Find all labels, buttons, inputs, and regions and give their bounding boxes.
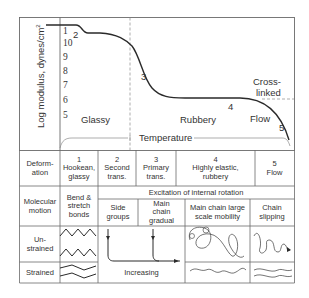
molecular-main-chain-large: Main chain largescale mobility xyxy=(185,199,250,226)
y-axis-label: Log modulus, dynes/cm2 xyxy=(35,24,46,128)
tick-6: 6 xyxy=(63,95,68,105)
zigzag-unstrained-bottom xyxy=(60,249,96,256)
molecular-excitation-header: Excitation of internal rotation xyxy=(98,187,294,199)
row-label-unstrained: Un-strained xyxy=(20,227,60,262)
x-axis-label: Temperature xyxy=(137,132,194,143)
zigzag-unstrained-top xyxy=(60,229,96,236)
increasing-label: Increasing xyxy=(98,264,185,282)
arrow-right xyxy=(174,259,179,263)
region-cross-linked-1: Cross- xyxy=(253,76,281,87)
arrow-down-2 xyxy=(151,236,155,240)
slipping-strained-2 xyxy=(254,275,292,277)
row-label-strained: Strained xyxy=(20,263,60,283)
chain-slipping-tangle xyxy=(254,233,290,253)
tick-5: 5 xyxy=(63,110,68,120)
coil-chain-unstrained xyxy=(189,227,244,257)
deformation-cell-4: 4Highly elastic,rubbery xyxy=(176,151,255,186)
molecular-bend-stretch: Bend &stretchbonds xyxy=(60,187,98,226)
temperature-bracket-left xyxy=(60,138,128,148)
region-flow: Flow xyxy=(250,113,270,124)
molecular-chain-slipping: Chainslipping xyxy=(250,199,294,226)
zigzag-strained-top xyxy=(60,265,96,270)
tick-9: 9 xyxy=(63,52,68,62)
molecular-main-chain-gradual: Mainchaingradual xyxy=(138,199,185,226)
coil-chain-strained xyxy=(190,268,246,273)
curve-label-2: 2 xyxy=(73,29,78,40)
region-cross-linked-2: linked xyxy=(256,87,281,98)
tick-8: 8 xyxy=(63,66,68,76)
tick-1: 1 xyxy=(63,26,68,36)
row-label-deformation: Deform-ation xyxy=(20,151,60,186)
increasing-arrow-path-2 xyxy=(153,229,159,261)
slipping-strained-1 xyxy=(254,269,292,271)
modulus-temperature-diagram: Log modulus, dynes/cm2 1 10 9 8 7 6 5 2 … xyxy=(0,0,309,298)
arrow-down-1 xyxy=(106,236,110,240)
tick-10: 10 xyxy=(63,38,73,48)
row-label-molecular-motion: Molecularmotion xyxy=(20,187,60,226)
curve-label-3: 3 xyxy=(141,71,146,82)
deformation-cell-5: 5Flow xyxy=(255,151,294,186)
deformation-cell-3: 3Primarytrans. xyxy=(136,151,176,186)
curve-label-4: 4 xyxy=(228,101,233,112)
increasing-arrow-path-1 xyxy=(108,229,180,261)
region-rubbery: Rubbery xyxy=(180,114,216,125)
zigzag-strained-bottom xyxy=(60,273,96,278)
region-glassy: Glassy xyxy=(81,114,110,125)
curve-label-5: 5 xyxy=(279,122,284,133)
molecular-side-groups: Sidegroups xyxy=(98,199,138,226)
deformation-cell-1: 1Hookean,glassy xyxy=(60,151,98,186)
deformation-cell-2: 2Secondtrans. xyxy=(98,151,136,186)
tick-7: 7 xyxy=(63,80,68,90)
